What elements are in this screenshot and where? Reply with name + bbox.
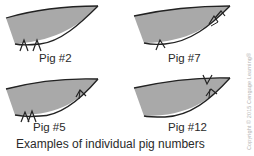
copyright-notice: Copyright © 2015 Cengage Learning® (246, 53, 252, 150)
label-pig-7: Pig #7 (168, 52, 201, 64)
ear-shape-pig-7 (134, 6, 230, 50)
label-pig-12: Pig #12 (168, 121, 207, 133)
ear-shape-pig-5 (6, 79, 98, 122)
label-pig-2: Pig #2 (39, 52, 72, 64)
ear-shape-pig-2 (6, 6, 98, 51)
label-pig-5: Pig #5 (33, 121, 66, 133)
ear-shape-pig-12 (134, 75, 230, 117)
figure-caption: Examples of individual pig numbers (16, 137, 205, 151)
